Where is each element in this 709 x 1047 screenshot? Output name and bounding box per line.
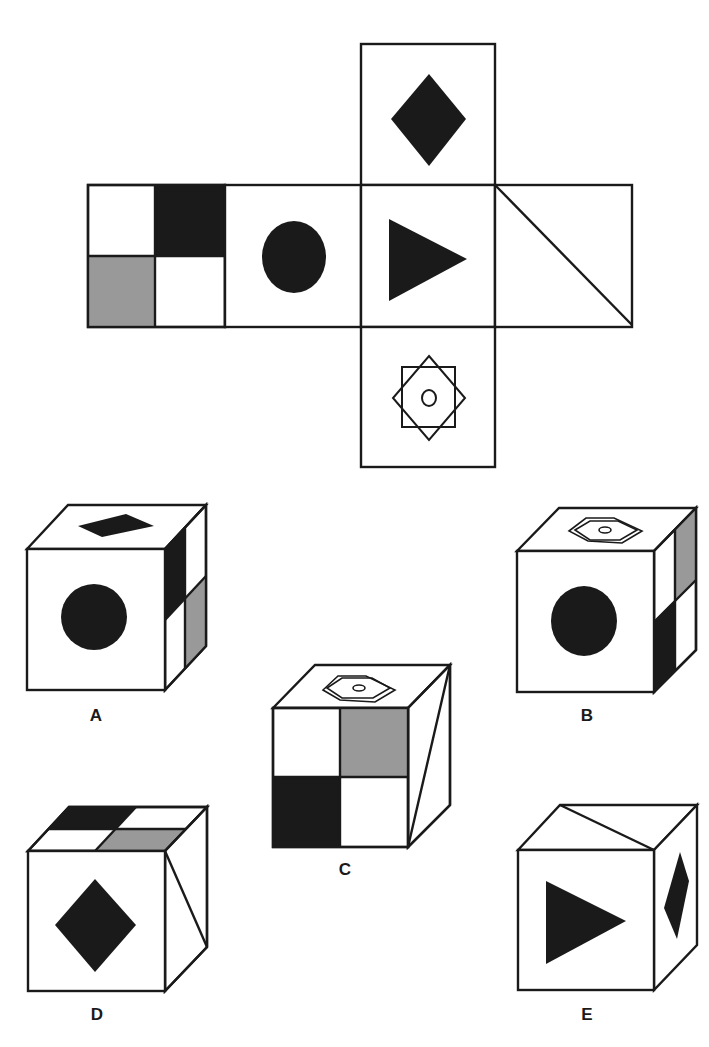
net-face-diagonal bbox=[495, 185, 632, 327]
cube-puzzle-figure bbox=[0, 0, 709, 1047]
net-face-star bbox=[361, 327, 495, 467]
option-label-d: D bbox=[82, 1005, 112, 1025]
net-face-triangle bbox=[361, 185, 495, 327]
circle-icon bbox=[262, 221, 326, 293]
net-face-checker bbox=[88, 185, 225, 327]
option-label-b: B bbox=[572, 706, 602, 726]
option-cube-e[interactable] bbox=[518, 805, 697, 990]
option-cube-d[interactable] bbox=[28, 807, 207, 991]
option-label-a: A bbox=[81, 706, 111, 726]
circle-icon bbox=[61, 584, 127, 650]
circle-icon bbox=[551, 586, 617, 656]
net-face-top bbox=[361, 44, 495, 185]
option-label-c: C bbox=[330, 860, 360, 880]
option-cube-c[interactable] bbox=[273, 665, 450, 847]
net-face-circle bbox=[225, 185, 361, 327]
cube-net bbox=[88, 44, 632, 467]
option-cube-b[interactable] bbox=[517, 508, 696, 692]
option-cube-a[interactable] bbox=[27, 505, 206, 690]
option-label-e: E bbox=[572, 1005, 602, 1025]
